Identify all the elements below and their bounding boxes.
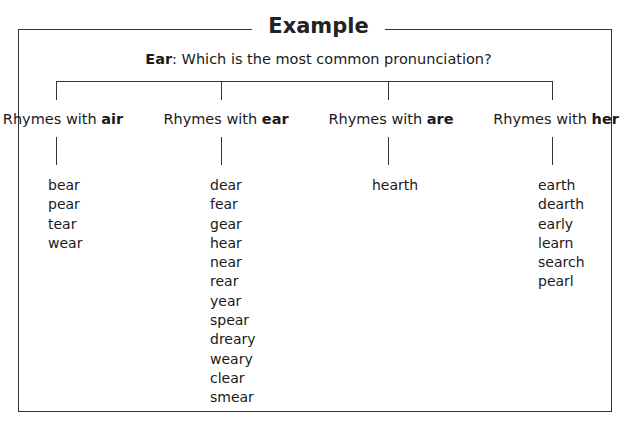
list-item: dreary (210, 330, 256, 349)
list-item: tear (48, 215, 82, 234)
list-item: dear (210, 176, 256, 195)
list-item: wear (48, 234, 82, 253)
list-item: pear (48, 195, 82, 214)
branch-stem-ear (221, 81, 222, 100)
list-item: spear (210, 311, 256, 330)
word-list-her: earth dearth early learn search pearl (538, 176, 585, 292)
list-item: bear (48, 176, 82, 195)
list-item: fear (210, 195, 256, 214)
branch-drop-are (388, 137, 389, 165)
list-item: earth (538, 176, 585, 195)
word-list-air: bear pear tear wear (48, 176, 82, 253)
branch-heading-are: Rhymes with are (328, 111, 453, 127)
branch-stem-are (388, 81, 389, 100)
word-list-ear: dear fear gear hear near rear year spear… (210, 176, 256, 408)
word-list-are: hearth (372, 176, 418, 195)
list-item: dearth (538, 195, 585, 214)
list-item: hear (210, 234, 256, 253)
branch-heading-air: Rhymes with air (3, 111, 123, 127)
branch-heading-ear: Rhymes with ear (163, 111, 288, 127)
branch-stem-her (552, 81, 553, 100)
list-item: weary (210, 350, 256, 369)
branch-drop-ear (221, 137, 222, 165)
question: Ear: Which is the most common pronunciat… (0, 51, 637, 67)
branch-drop-her (552, 137, 553, 165)
question-text: : Which is the most common pronunciation… (172, 51, 492, 67)
list-item: year (210, 292, 256, 311)
list-item: early (538, 215, 585, 234)
tree-connector-horizontal (56, 81, 552, 82)
branch-heading-her: Rhymes with her (493, 111, 619, 127)
list-item: learn (538, 234, 585, 253)
list-item: smear (210, 388, 256, 407)
list-item: rear (210, 272, 256, 291)
list-item: clear (210, 369, 256, 388)
list-item: hearth (372, 176, 418, 195)
list-item: near (210, 253, 256, 272)
branch-stem-air (56, 81, 57, 100)
list-item: gear (210, 215, 256, 234)
list-item: pearl (538, 272, 585, 291)
question-word: Ear (145, 51, 172, 67)
branch-drop-air (56, 137, 57, 165)
list-item: search (538, 253, 585, 272)
diagram-title: Example (0, 14, 637, 38)
example-frame (18, 29, 612, 412)
